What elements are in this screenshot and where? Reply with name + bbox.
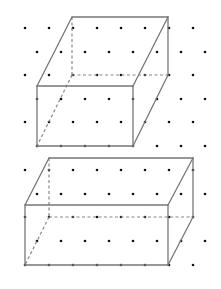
- grid-dot: [192, 74, 195, 77]
- grid-dot: [48, 74, 51, 77]
- grid-dot: [120, 169, 123, 172]
- grid-dot: [60, 240, 63, 243]
- grid-dot: [132, 240, 135, 243]
- grid-dot: [24, 74, 27, 77]
- grid-dot: [84, 240, 87, 243]
- grid-dot: [108, 193, 111, 196]
- grid-dot: [156, 240, 159, 243]
- grid-dot: [132, 193, 135, 196]
- grid-dot: [156, 145, 159, 148]
- grid-dot: [168, 121, 171, 124]
- grid-dot: [156, 51, 159, 54]
- grid-dot: [84, 193, 87, 196]
- grid-dot: [108, 98, 111, 101]
- grid-dot: [156, 193, 159, 196]
- grid-dot: [96, 216, 99, 219]
- grid-dot: [24, 27, 27, 30]
- grid-dot: [24, 121, 27, 124]
- grid-dot: [84, 51, 87, 54]
- grid-dot: [180, 51, 183, 54]
- grid-dot: [120, 121, 123, 124]
- grid-dot: [120, 27, 123, 30]
- grid-dot: [36, 51, 39, 54]
- grid-dot: [204, 193, 207, 196]
- grid-dot: [96, 27, 99, 30]
- grid-dot: [204, 98, 207, 101]
- grid-dot: [72, 169, 75, 172]
- grid-dot: [96, 169, 99, 172]
- grid-dot: [144, 169, 147, 172]
- grid-dot: [180, 145, 183, 148]
- grid-dot: [96, 121, 99, 124]
- grid-dot: [48, 27, 51, 30]
- grid-dot: [204, 240, 207, 243]
- grid-dot: [36, 193, 39, 196]
- grid-dot: [24, 169, 27, 172]
- grid-dot: [72, 121, 75, 124]
- grid-dot: [144, 27, 147, 30]
- background: [0, 0, 221, 289]
- grid-dot: [192, 264, 195, 267]
- grid-dot: [192, 121, 195, 124]
- grid-dot: [204, 51, 207, 54]
- grid-dot: [84, 98, 87, 101]
- grid-dot: [204, 145, 207, 148]
- grid-dot: [180, 98, 183, 101]
- grid-dot: [60, 51, 63, 54]
- grid-dot: [180, 193, 183, 196]
- grid-dot: [132, 51, 135, 54]
- grid-dot: [60, 193, 63, 196]
- grid-dot: [108, 51, 111, 54]
- grid-dot: [192, 27, 195, 30]
- dot-paper-diagram: [0, 0, 221, 289]
- grid-dot: [168, 169, 171, 172]
- grid-dot: [108, 240, 111, 243]
